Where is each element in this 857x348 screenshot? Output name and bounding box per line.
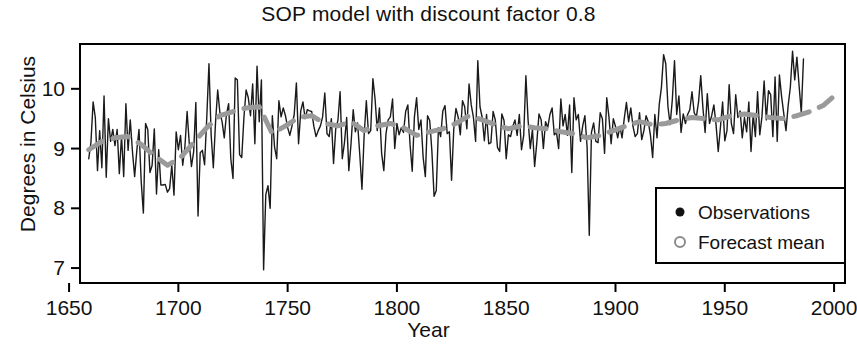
x-tick-label: 2000	[811, 296, 857, 319]
legend-marker-filled-circle-icon	[676, 208, 685, 217]
y-tick-label: 8	[53, 196, 65, 219]
legend-label-2: Forecast mean	[698, 232, 825, 253]
x-tick-label: 1850	[483, 296, 530, 319]
plot-area: 1650170017501800185019001950200078910 Ob…	[0, 0, 857, 348]
x-tick-label: 1700	[155, 296, 202, 319]
y-tick-label: 7	[53, 256, 65, 279]
y-tick-label: 9	[53, 137, 65, 160]
x-tick-label: 1800	[374, 296, 421, 319]
x-tick-label: 1900	[592, 296, 639, 319]
legend-box: ObservationsForecast mean	[656, 188, 845, 263]
x-tick-label: 1750	[264, 296, 311, 319]
y-tick-label: 10	[42, 77, 65, 100]
x-tick-label: 1650	[46, 296, 93, 319]
x-tick-label: 1950	[701, 296, 748, 319]
axis-group: 1650170017501800185019001950200078910	[42, 44, 857, 319]
legend-label-1: Observations	[698, 202, 810, 223]
chart-container: SOP model with discount factor 0.8 Degre…	[0, 0, 857, 348]
